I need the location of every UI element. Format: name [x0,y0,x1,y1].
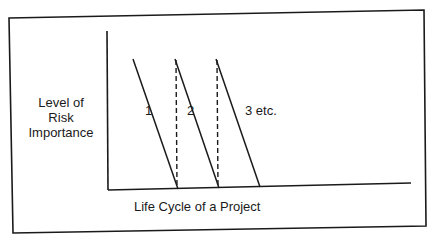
y-axis [107,31,108,190]
y-axis-label-line-2: Risk [26,110,96,125]
dashed-divider-2 [217,60,218,188]
y-axis-label: Level of Risk Importance [26,95,96,140]
risk-line-2 [175,59,219,188]
risk-line-3 [216,59,260,187]
dashed-divider-1 [176,60,177,189]
curve-label-2: 2 [187,103,194,118]
curve-label-1: 1 [145,103,152,118]
y-axis-label-line-3: Importance [26,125,96,140]
y-axis-label-line-1: Level of [26,95,96,110]
risk-line-1 [133,59,178,189]
x-axis-label: Life Cycle of a Project [134,199,260,214]
curve-label-3: 3 etc. [245,103,277,118]
